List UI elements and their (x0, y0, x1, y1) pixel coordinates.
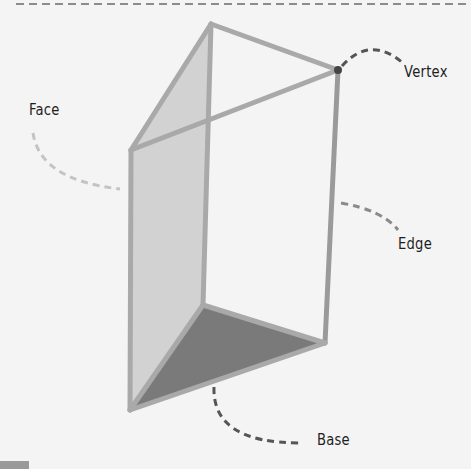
base-label: Base (317, 430, 350, 449)
vertex-label: Vertex (404, 62, 448, 81)
prism-diagram: Vertex Face Edge Base (0, 0, 471, 469)
edge-label: Edge (398, 234, 432, 253)
edge-leader (341, 203, 398, 230)
vertex-dot (334, 66, 342, 74)
vertex-leader (342, 50, 403, 66)
face-leader (33, 133, 120, 189)
base-leader (214, 387, 300, 443)
face-label: Face (29, 100, 60, 119)
corner-tab (0, 461, 29, 469)
